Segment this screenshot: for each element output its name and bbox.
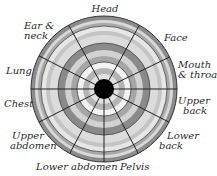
label-ear-neck: Ear &neck	[24, 21, 54, 41]
label-upper-abdomen: Upperabdomen	[10, 131, 57, 151]
center-disc	[94, 79, 114, 99]
label-upper-back: Upperback	[178, 96, 210, 116]
label-face: Face	[164, 33, 188, 43]
label-pelvis: Pelvis	[120, 162, 149, 172]
label-lung: Lung	[6, 66, 32, 76]
label-mouth-throat: Mouth& throat	[178, 60, 217, 80]
label-chest: Chest	[4, 99, 33, 109]
label-lower-abdomen: Lower abdomen	[36, 162, 118, 172]
label-lower-back: Lowerback	[159, 131, 199, 151]
label-head: Head	[88, 4, 122, 14]
